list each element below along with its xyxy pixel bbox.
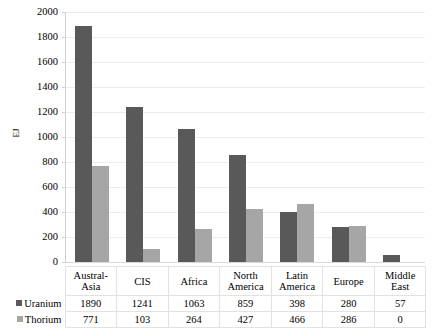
- table-cell: 1890: [65, 296, 117, 312]
- bar-thorium: [297, 204, 314, 262]
- y-axis-tick-label: 1200: [37, 107, 58, 117]
- plot-area: [65, 12, 425, 262]
- table-column-header: LatinAmerica: [271, 267, 323, 296]
- table-cell: 427: [220, 312, 272, 328]
- bar-uranium: [383, 255, 400, 262]
- table-column-header: MiddleEast: [374, 267, 426, 296]
- legend-swatch-icon: [16, 300, 22, 306]
- table-column-header: Europe: [323, 267, 375, 296]
- table-cell: 280: [323, 296, 375, 312]
- bar-uranium: [126, 107, 143, 262]
- table-cell: 1241: [117, 296, 169, 312]
- legend-series-label: Uranium: [24, 299, 61, 310]
- bar-group: [323, 12, 374, 262]
- bar-uranium: [229, 155, 246, 262]
- chart-data-table: Austral-AsiaCISAfricaNorthAmericaLatinAm…: [0, 266, 426, 328]
- bar-thorium: [349, 226, 366, 262]
- table-cell: 103: [117, 312, 169, 328]
- bar-group: [169, 12, 220, 262]
- clustered-column-chart-with-data-table: EJ 2000180016001400120010008006004002000…: [0, 0, 434, 336]
- table-cell: 466: [271, 312, 323, 328]
- table-column-header: CIS: [117, 267, 169, 296]
- y-axis-tick-label: 1400: [37, 82, 58, 92]
- y-axis-tick-label: 1800: [37, 32, 58, 42]
- legend-series-label: Thorium: [25, 315, 62, 326]
- bar-uranium: [332, 227, 349, 262]
- table-column-header: Africa: [168, 267, 220, 296]
- y-axis-title: EJ: [11, 121, 21, 145]
- y-axis-tick-labels: 2000180016001400120010008006004002000: [22, 0, 62, 270]
- table-column-header: Austral-Asia: [65, 267, 117, 296]
- bars-layer: [66, 12, 425, 262]
- table-row: Thorium7711032644274662860: [0, 312, 426, 328]
- gridline: [66, 262, 425, 263]
- table-column-header: NorthAmerica: [220, 267, 272, 296]
- y-axis-tick-label: 800: [42, 157, 58, 167]
- bar-thorium: [195, 229, 212, 262]
- table-header-row: Austral-AsiaCISAfricaNorthAmericaLatinAm…: [0, 267, 426, 296]
- table-cell: 0: [374, 312, 426, 328]
- bar-thorium: [143, 249, 160, 262]
- table-cell: 771: [65, 312, 117, 328]
- table-cell: 859: [220, 296, 272, 312]
- y-axis-tick-label: 600: [42, 182, 58, 192]
- bar-group: [375, 12, 426, 262]
- table-row: Uranium18901241106385939828057: [0, 296, 426, 312]
- table-cell: 286: [323, 312, 375, 328]
- legend-swatch-icon: [17, 316, 23, 322]
- y-axis-tick-label: 200: [42, 232, 58, 242]
- bar-group: [272, 12, 323, 262]
- y-axis-tick-label: 1600: [37, 57, 58, 67]
- table-cell: 1063: [168, 296, 220, 312]
- table-cell: 398: [271, 296, 323, 312]
- axis-tickmark: [62, 262, 66, 263]
- bar-group: [220, 12, 271, 262]
- chart-plot-region: EJ 2000180016001400120010008006004002000: [0, 0, 434, 270]
- bar-uranium: [75, 26, 92, 262]
- y-axis-tick-label: 2000: [37, 7, 58, 17]
- table-cell: 57: [374, 296, 426, 312]
- bar-thorium: [246, 209, 263, 262]
- bar-group: [66, 12, 117, 262]
- bar-uranium: [178, 129, 195, 262]
- y-axis-tick-label: 400: [42, 207, 58, 217]
- bar-uranium: [280, 212, 297, 262]
- table-corner-cell: [0, 267, 65, 296]
- bar-group: [117, 12, 168, 262]
- bar-thorium: [92, 166, 109, 262]
- legend-entry-uranium: Uranium: [0, 296, 65, 312]
- table-cell: 264: [168, 312, 220, 328]
- legend-entry-thorium: Thorium: [0, 312, 65, 328]
- y-axis-tick-label: 1000: [37, 132, 58, 142]
